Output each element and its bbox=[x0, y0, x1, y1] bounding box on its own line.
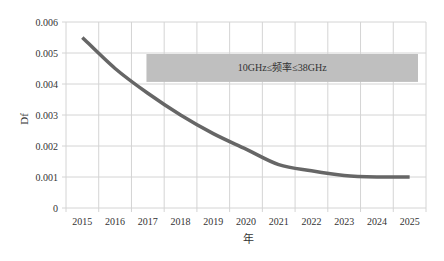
y-axis-ticks: 00.0010.0020.0030.0040.0050.006 bbox=[36, 17, 59, 214]
x-tick-label: 2023 bbox=[334, 216, 354, 227]
frequency-band-annotation: 10GHz≤频率≤38GHz bbox=[146, 54, 418, 82]
x-tick-label: 2022 bbox=[301, 216, 321, 227]
y-axis-title: Df bbox=[18, 113, 30, 125]
y-tick-label: 0.002 bbox=[36, 141, 59, 152]
y-tick-label: 0.001 bbox=[36, 172, 59, 183]
band-label: 10GHz≤频率≤38GHz bbox=[238, 61, 327, 73]
x-tick-label: 2024 bbox=[367, 216, 387, 227]
x-tick-label: 2019 bbox=[203, 216, 223, 227]
x-tick-label: 2016 bbox=[105, 216, 125, 227]
x-tick-label: 2025 bbox=[400, 216, 420, 227]
x-tick-label: 2017 bbox=[138, 216, 158, 227]
x-tick-label: 2018 bbox=[171, 216, 191, 227]
y-tick-label: 0 bbox=[53, 203, 58, 214]
line-chart: 10GHz≤频率≤38GHz 00.0010.0020.0030.0040.00… bbox=[0, 0, 444, 261]
x-tick-label: 2021 bbox=[269, 216, 289, 227]
y-tick-label: 0.004 bbox=[36, 79, 59, 90]
grid-lines bbox=[62, 22, 426, 212]
y-tick-label: 0.005 bbox=[36, 48, 59, 59]
y-tick-label: 0.006 bbox=[36, 17, 59, 28]
x-tick-label: 2020 bbox=[236, 216, 256, 227]
x-tick-label: 2015 bbox=[72, 216, 92, 227]
y-tick-label: 0.003 bbox=[36, 110, 59, 121]
x-axis-title: 年 bbox=[243, 232, 254, 245]
x-axis-ticks: 2015201620172018201920202021202220232024… bbox=[72, 216, 419, 227]
